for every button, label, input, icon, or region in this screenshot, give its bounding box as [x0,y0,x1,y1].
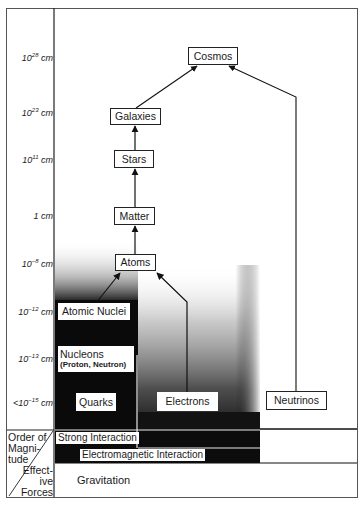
nucleons-sublabel: (Proton, Neutron) [60,361,126,369]
y-label-exp: −12 [28,306,38,312]
y-label-exp: −15 [28,397,38,403]
y-label-exp: −13 [28,353,38,359]
node-cosmos: Cosmos [188,47,238,65]
y-label-base: 1 [33,211,38,221]
node-nucleons: Nucleons (Proton, Neutron) [58,346,134,372]
y-label-1e-13: 10−13 cm [18,353,53,364]
y-label-1cm: 1 cm [33,210,53,221]
y-label-unit: cm [41,108,53,118]
force-strong-label: Strong Interaction [56,432,139,444]
nucleons-label: Nucleons [60,349,104,360]
y-label-exp: 11 [32,154,38,160]
node-quarks: Quarks [76,393,116,411]
corner-bottom-line: Forces [21,487,53,498]
y-label-1e-8: 10−8 cm [22,258,53,269]
y-label-exp: 28 [32,52,39,58]
y-label-base: 10 [22,108,32,118]
y-label-base: 10 [22,155,32,165]
node-atomic-nuclei: Atomic Nuclei [58,303,130,320]
y-label-base: 10 [18,307,28,317]
y-label-1e28: 1028 cm [22,52,53,63]
y-label-unit: cm [41,354,53,364]
force-electromagnetic-label: Electromagnetic Interaction [80,449,205,461]
y-label-unit: cm [41,155,53,165]
node-neutrinos: Neutrinos [266,391,327,410]
diagram-graphics [0,0,360,506]
force-gravitation-label: Gravitation [77,474,130,486]
y-label-base: 10 [18,354,28,364]
y-label-unit: cm [41,307,53,317]
y-label-lt-1e-15: <10−15 cm [13,397,53,408]
node-galaxies: Galaxies [110,108,161,125]
y-label-unit: cm [41,259,53,269]
y-label-exp: −8 [32,258,39,264]
y-label-unit: cm [41,53,53,63]
y-label-unit: cm [41,398,53,408]
y-label-base: 10 [22,259,32,269]
node-matter: Matter [114,207,155,225]
y-label-1e11: 1011 cm [22,154,53,165]
node-stars: Stars [114,150,154,168]
y-label-1e-12: 10−12 cm [18,306,53,317]
corner-effective-forces: Effect- ive Forces [21,465,53,498]
y-label-base: <10 [13,398,28,408]
y-label-base: 10 [22,53,32,63]
y-label-1e23: 1023 cm [22,107,53,118]
node-electrons: Electrons [157,392,218,411]
y-label-exp: 23 [32,107,39,113]
y-label-unit: cm [41,211,53,221]
node-atoms: Atoms [115,254,156,271]
corner-order-of-magnitude: Order of Magni- tude [8,432,47,465]
